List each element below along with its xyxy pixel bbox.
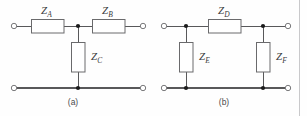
label-zd: ZD — [218, 4, 230, 19]
terminal-b-output-top[interactable] — [285, 23, 290, 28]
node-dot-b-bottom-left — [184, 86, 188, 90]
terminal-b-input-top[interactable] — [161, 23, 166, 28]
terminal-a-input-top[interactable] — [11, 23, 16, 28]
node-dot-a-bottom — [76, 86, 80, 90]
terminal-b-output-bottom[interactable] — [285, 85, 290, 90]
node-dot-b-top-right — [261, 24, 265, 28]
circuit-a-group: ZA ZB ZC (a) — [11, 4, 145, 107]
label-zc: ZC — [91, 50, 103, 65]
terminal-a-output-bottom[interactable] — [140, 85, 145, 90]
node-dot-b-bottom-right — [261, 86, 265, 90]
component-za-body — [32, 20, 65, 34]
component-zf-body — [257, 43, 271, 73]
label-zf: ZF — [276, 50, 287, 65]
node-dot-b-top-left — [184, 24, 188, 28]
circuit-b-group: ZD ZE ZF (b) — [161, 4, 290, 107]
node-dot-a-top — [76, 24, 80, 28]
label-zb: ZB — [102, 4, 113, 19]
component-zb-body — [93, 20, 126, 34]
label-ze: ZE — [199, 50, 210, 65]
caption-a: (a) — [68, 97, 79, 107]
label-za: ZA — [41, 4, 52, 19]
caption-b: (b) — [219, 97, 230, 107]
component-ze-body — [180, 43, 194, 73]
terminal-a-output-top[interactable] — [140, 23, 145, 28]
terminal-a-input-bottom[interactable] — [11, 85, 16, 90]
terminal-b-input-bottom[interactable] — [161, 85, 166, 90]
component-zc-body — [72, 43, 86, 73]
circuit-diagram-svg: ZA ZB ZC (a) — [0, 0, 307, 116]
figure-container: ZA ZB ZC (a) — [0, 0, 307, 116]
component-zd-body — [209, 20, 242, 34]
